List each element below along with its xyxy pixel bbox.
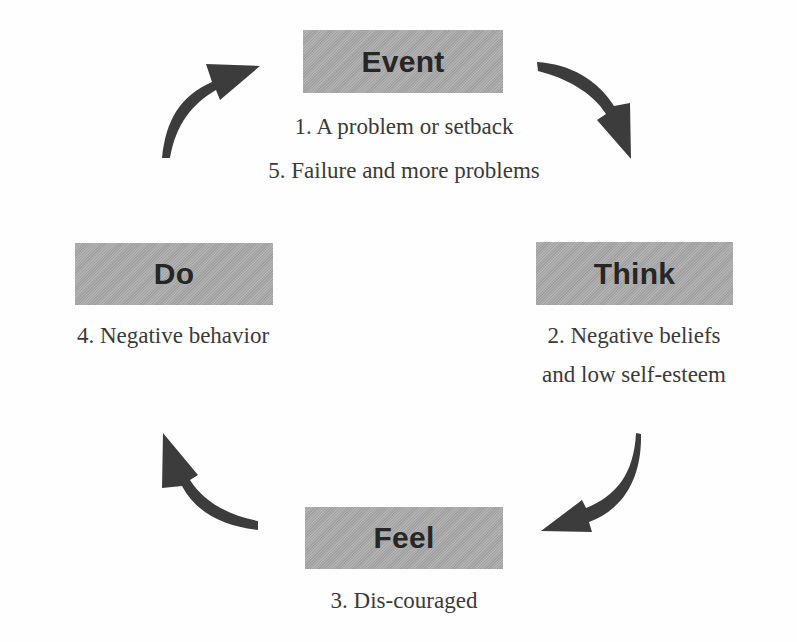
event-caption-2: 5. Failure and more problems [268,159,539,182]
arrow-feel-to-do-icon [162,433,258,530]
feel-box: Feel [305,507,503,569]
think-caption-1: 2. Negative beliefs [547,324,720,347]
arrow-do-to-event-icon [162,64,260,158]
arrow-think-to-feel-icon [541,433,641,532]
do-caption: 4. Negative behavior [77,324,269,347]
do-label: Do [154,257,195,291]
think-box: Think [536,242,733,305]
feel-caption: 3. Dis-couraged [331,589,478,612]
arrow-event-to-think-icon [537,62,631,159]
feel-label: Feel [373,521,434,555]
cycle-diagram: Event 1. A problem or setback 5. Failure… [0,0,797,642]
event-caption-1: 1. A problem or setback [294,115,513,138]
think-label: Think [594,257,676,291]
event-label: Event [361,45,444,79]
do-box: Do [75,243,273,305]
event-box: Event [303,30,503,93]
think-caption-2: and low self-esteem [542,363,726,386]
